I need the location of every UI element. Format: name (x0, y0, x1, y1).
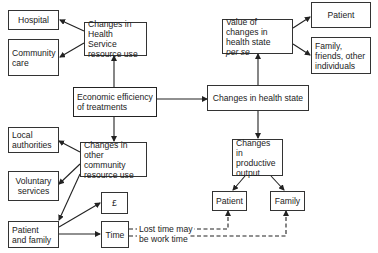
node-time-label: Time (106, 230, 125, 240)
node-voluntary-services: Voluntary services (8, 171, 59, 201)
node-value-per-se-label: per se (226, 47, 250, 57)
node-other-community-label: Changes in other community resource use (84, 140, 143, 180)
node-economic-efficiency: Economic efficiency of treatments (73, 87, 157, 117)
node-health-state-label: Changes in health state (213, 93, 303, 103)
node-family-friends: Family, friends, other individuals (311, 37, 371, 74)
node-patient-bottom-label: Patient (216, 196, 243, 206)
node-patient-top: Patient (311, 2, 371, 28)
node-community-care-label: Community care (12, 48, 55, 68)
node-family-friends-label: Family, friends, other individuals (315, 41, 367, 71)
node-productive-output-label: Changes in productive output (236, 138, 279, 178)
node-local-authorities-label: Local authorities (12, 130, 55, 150)
node-other-community-resource-use: Changes in other community resource use (80, 142, 147, 177)
annotation-lost-time-line1: Lost time may (138, 224, 194, 234)
node-family-bottom: Family (270, 191, 305, 211)
node-patient-and-family-label: Patient and family (12, 225, 55, 245)
node-community-care: Community care (8, 39, 59, 76)
node-health-service-resource-use: Changes in Health Service resource use (84, 22, 147, 56)
node-family-bottom-label: Family (275, 196, 300, 206)
node-productive-output: Changes in productive output (232, 139, 283, 176)
node-patient-top-label: Patient (328, 10, 355, 20)
node-hospital: Hospital (8, 10, 59, 30)
node-patient-and-family: Patient and family (8, 221, 59, 248)
node-health-state: Changes in health state (207, 85, 309, 111)
node-health-service-label: Changes in Health Service resource use (88, 19, 143, 59)
annotation-lost-time-line2: be work time (138, 234, 189, 244)
node-hospital-label: Hospital (18, 15, 49, 25)
node-value-of-changes-label: Value of changes in health state (226, 17, 289, 47)
node-voluntary-services-label: Voluntary services (12, 176, 55, 196)
node-time: Time (101, 221, 129, 248)
node-pound: £ (101, 192, 128, 214)
node-local-authorities: Local authorities (8, 127, 59, 153)
node-value-of-changes: Value of changes in health state per se (222, 19, 293, 54)
node-patient-bottom: Patient (212, 191, 247, 211)
pound-sign-icon: £ (112, 198, 117, 208)
node-economic-efficiency-label: Economic efficiency of treatments (77, 92, 153, 112)
